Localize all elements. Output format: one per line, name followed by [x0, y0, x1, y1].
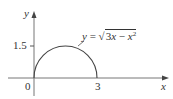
y-axis-arrow-icon: [32, 11, 37, 18]
eq-minus: −: [116, 30, 128, 42]
eq-lhs: y: [82, 30, 87, 42]
sqrt-icon: √: [99, 30, 105, 42]
curve-equation-label: y = √3x − x2: [82, 30, 136, 42]
y-axis-label: y: [24, 8, 29, 19]
eq-equals: =: [90, 30, 96, 42]
semicircle-curve: [34, 46, 97, 78]
eq-radicand: 3x − x2: [105, 29, 137, 42]
eq-exponent: 2: [133, 30, 137, 38]
x-axis-label: x: [161, 81, 166, 92]
origin-label: 0: [25, 81, 31, 92]
x-tick-label: 3: [95, 81, 101, 92]
y-tick-label: 1.5: [13, 40, 27, 51]
